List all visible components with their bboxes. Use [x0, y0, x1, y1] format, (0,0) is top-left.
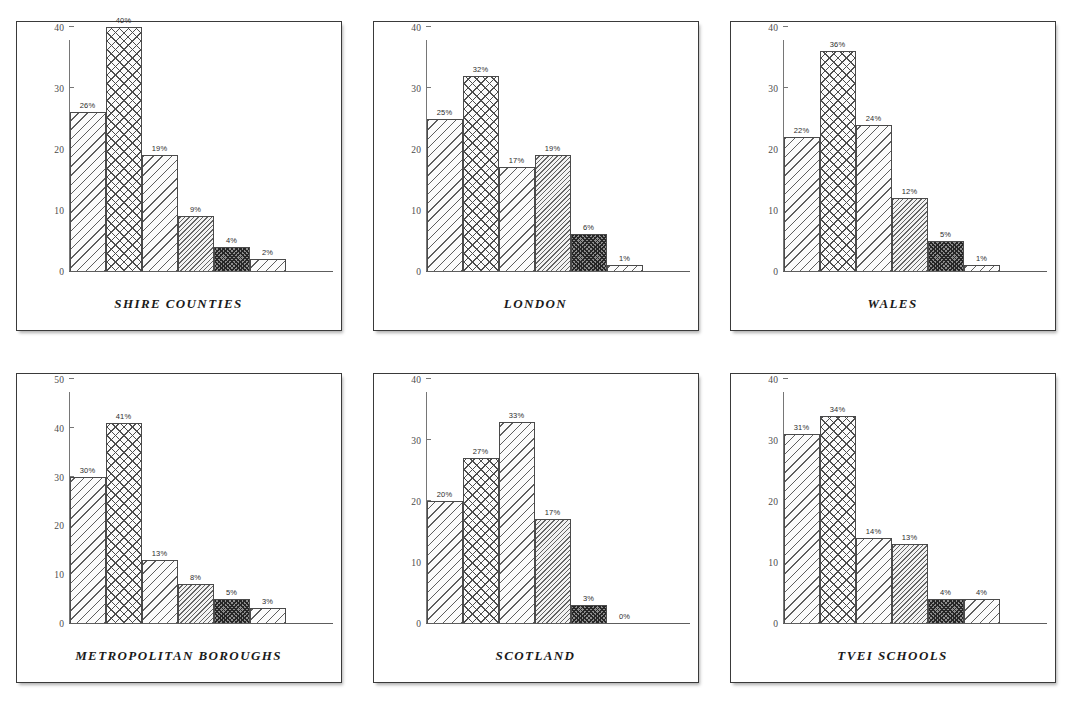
y-axis-tick-label: 30 [374, 84, 422, 94]
chart-panel-cell: 01020304026%40%19%9%4%2%SHIRE COUNTIES [0, 0, 357, 352]
x-axis-baseline [426, 271, 690, 272]
bar-slot: 4% [928, 379, 964, 623]
bar-slot: 34% [820, 379, 856, 623]
y-axis-tick-label: 0 [17, 619, 65, 629]
x-axis-baseline [426, 623, 690, 624]
bar-value-label: 41% [116, 412, 132, 421]
bar: 5% [214, 599, 250, 623]
bar-slot: 17% [499, 27, 535, 271]
bar: 3% [250, 608, 286, 623]
bar-slot: 41% [106, 379, 142, 623]
bar-slot: 1% [607, 27, 643, 271]
bar-slot: 8% [178, 379, 214, 623]
panel-title: WALES [731, 296, 1055, 312]
bar: 14% [856, 538, 892, 623]
bar-series: 22%36%24%12%5%1% [784, 27, 1000, 271]
bar-series: 26%40%19%9%4%2% [70, 27, 286, 271]
bar-slot: 3% [571, 379, 607, 623]
bar-slot: 40% [106, 27, 142, 271]
y-axis-tick-label: 20 [374, 145, 422, 155]
bar: 31% [784, 434, 820, 623]
y-axis-tick-label: 20 [17, 145, 65, 155]
plot-area: 01020304031%34%14%13%4%4%TVEI SCHOOLS [731, 374, 1055, 682]
y-axis-tick-label: 20 [731, 497, 779, 507]
bar-series: 25%32%17%19%6%1% [427, 27, 643, 271]
bar-series: 20%27%33%17%3%0% [427, 379, 643, 623]
bar: 13% [892, 544, 928, 623]
bar-slot: 4% [964, 379, 1000, 623]
bar-value-label: 19% [152, 144, 168, 153]
bar-slot: 2% [250, 27, 286, 271]
chart-panel: 01020304025%32%17%19%6%1%LONDON [373, 21, 699, 331]
bar: 9% [178, 216, 214, 271]
plot-area: 01020304025%32%17%19%6%1%LONDON [374, 22, 698, 330]
bar: 12% [892, 198, 928, 271]
bar: 34% [820, 416, 856, 623]
bar-value-label: 34% [830, 405, 846, 414]
bar: 41% [106, 423, 142, 623]
bar-slot: 6% [571, 27, 607, 271]
bar-slot: 30% [70, 379, 106, 623]
bar-value-label: 22% [794, 126, 810, 135]
x-axis-baseline [783, 623, 1047, 624]
bar: 4% [214, 247, 250, 271]
y-axis-tick-label: 10 [731, 206, 779, 216]
bar-value-label: 26% [80, 101, 96, 110]
bar-value-label: 17% [509, 156, 525, 165]
bar: 19% [535, 155, 571, 271]
y-axis-tick-label: 30 [17, 473, 65, 483]
y-axis-tick-label: 10 [731, 558, 779, 568]
bar-value-label: 8% [190, 573, 201, 582]
y-axis-tick-label: 20 [731, 145, 779, 155]
bar-value-label: 6% [583, 223, 594, 232]
x-axis-baseline [69, 623, 333, 624]
panel-title: LONDON [374, 296, 698, 312]
bar: 17% [499, 167, 535, 271]
bar-slot: 24% [856, 27, 892, 271]
bar-slot: 27% [463, 379, 499, 623]
plot-area: 0102030405030%41%13%8%5%3%METROPOLITAN B… [17, 374, 341, 682]
bar-value-label: 12% [902, 187, 918, 196]
bar: 1% [964, 265, 1000, 271]
bar: 33% [499, 422, 535, 623]
bar: 25% [427, 119, 463, 272]
y-axis-tick-label: 30 [17, 84, 65, 94]
y-axis-tick-label: 20 [17, 521, 65, 531]
y-axis-tick-label: 0 [374, 267, 422, 277]
y-axis-tick-label: 40 [17, 23, 65, 33]
bar-value-label: 5% [940, 230, 951, 239]
bar-slot: 13% [142, 379, 178, 623]
bar: 26% [70, 112, 106, 271]
y-axis-tick-label: 40 [731, 375, 779, 385]
y-axis-tick-label: 20 [374, 497, 422, 507]
chart-panel-cell: 01020304031%34%14%13%4%4%TVEI SCHOOLS [714, 352, 1071, 704]
bar: 6% [571, 234, 607, 271]
bar: 5% [928, 241, 964, 272]
bar: 20% [427, 501, 463, 623]
bar-value-label: 20% [437, 490, 453, 499]
bar: 13% [142, 560, 178, 623]
bar-slot: 17% [535, 379, 571, 623]
bar-value-label: 1% [619, 254, 630, 263]
plot-area: 01020304026%40%19%9%4%2%SHIRE COUNTIES [17, 22, 341, 330]
chart-panel-grid: 01020304026%40%19%9%4%2%SHIRE COUNTIES01… [0, 0, 1071, 704]
chart-panel: 01020304031%34%14%13%4%4%TVEI SCHOOLS [730, 373, 1056, 683]
y-axis-tick-label: 0 [17, 267, 65, 277]
chart-panel-cell: 01020304025%32%17%19%6%1%LONDON [357, 0, 714, 352]
bar-value-label: 17% [545, 508, 561, 517]
bar-slot: 33% [499, 379, 535, 623]
bar-slot: 31% [784, 379, 820, 623]
y-axis-tick-label: 10 [374, 558, 422, 568]
bar-value-label: 13% [152, 549, 168, 558]
bar: 30% [70, 477, 106, 623]
chart-panel-cell: 01020304020%27%33%17%3%0%SCOTLAND [357, 352, 714, 704]
bar: 22% [784, 137, 820, 271]
bar: 1% [607, 265, 643, 271]
y-axis-tick-label: 30 [731, 436, 779, 446]
bar-slot: 12% [892, 27, 928, 271]
bar-slot: 32% [463, 27, 499, 271]
bar: 32% [463, 76, 499, 271]
bar-value-label: 27% [473, 447, 489, 456]
chart-panel-cell: 0102030405030%41%13%8%5%3%METROPOLITAN B… [0, 352, 357, 704]
bar: 2% [250, 259, 286, 271]
